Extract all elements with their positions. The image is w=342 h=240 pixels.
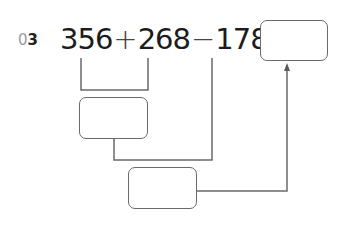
intermediate-box-1[interactable] [79,97,148,139]
answer-box[interactable] [260,20,328,61]
bracket-line [81,58,148,90]
arrow-up-icon [284,63,290,71]
connector-line-3 [197,70,287,191]
intermediate-box-2[interactable] [128,167,197,209]
